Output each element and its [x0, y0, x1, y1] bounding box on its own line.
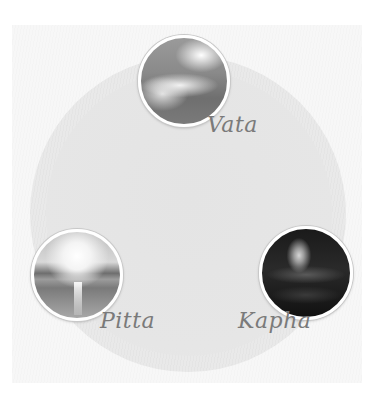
pitta-label: Pitta — [100, 310, 155, 332]
water-drop-icon — [259, 226, 353, 320]
vata-label: Vata — [207, 114, 258, 136]
kapha-label: Kapha — [238, 310, 311, 332]
